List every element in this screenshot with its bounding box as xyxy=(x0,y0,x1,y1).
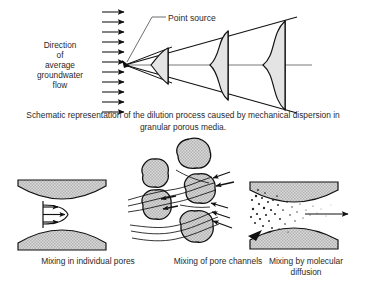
grain-upper-c xyxy=(250,182,338,202)
velocity-arrows xyxy=(43,207,65,222)
figure-caption: Schematic representation of the dilution… xyxy=(16,110,350,133)
panel-individual-pores xyxy=(18,180,106,250)
profile-curve-3 xyxy=(263,21,285,110)
panel-label-individual-pores: Mixing in individual pores xyxy=(8,256,168,266)
grain-b1 xyxy=(142,159,168,187)
grain-b5 xyxy=(180,211,213,243)
grain-b2 xyxy=(177,138,211,168)
panel-molecular-diffusion xyxy=(248,182,348,249)
grain-cluster xyxy=(142,138,215,242)
concentration-profiles xyxy=(151,21,285,110)
grain-lower-a xyxy=(18,230,106,250)
concentration-profile-3 xyxy=(263,21,285,110)
groundwater-flow-arrows xyxy=(102,12,124,112)
groundwater-flow-label: Direction of average groundwater flow xyxy=(20,40,100,90)
dispersion-figure: Direction of average groundwater flow Po… xyxy=(0,0,366,288)
point-source-label: Point source xyxy=(168,13,248,23)
grain-lower-c xyxy=(250,228,338,249)
grain-upper-a xyxy=(18,180,106,199)
panel-pore-channels xyxy=(128,138,234,242)
panel-label-molecular-diffusion: Mixing by molecular diffusion xyxy=(250,256,362,277)
